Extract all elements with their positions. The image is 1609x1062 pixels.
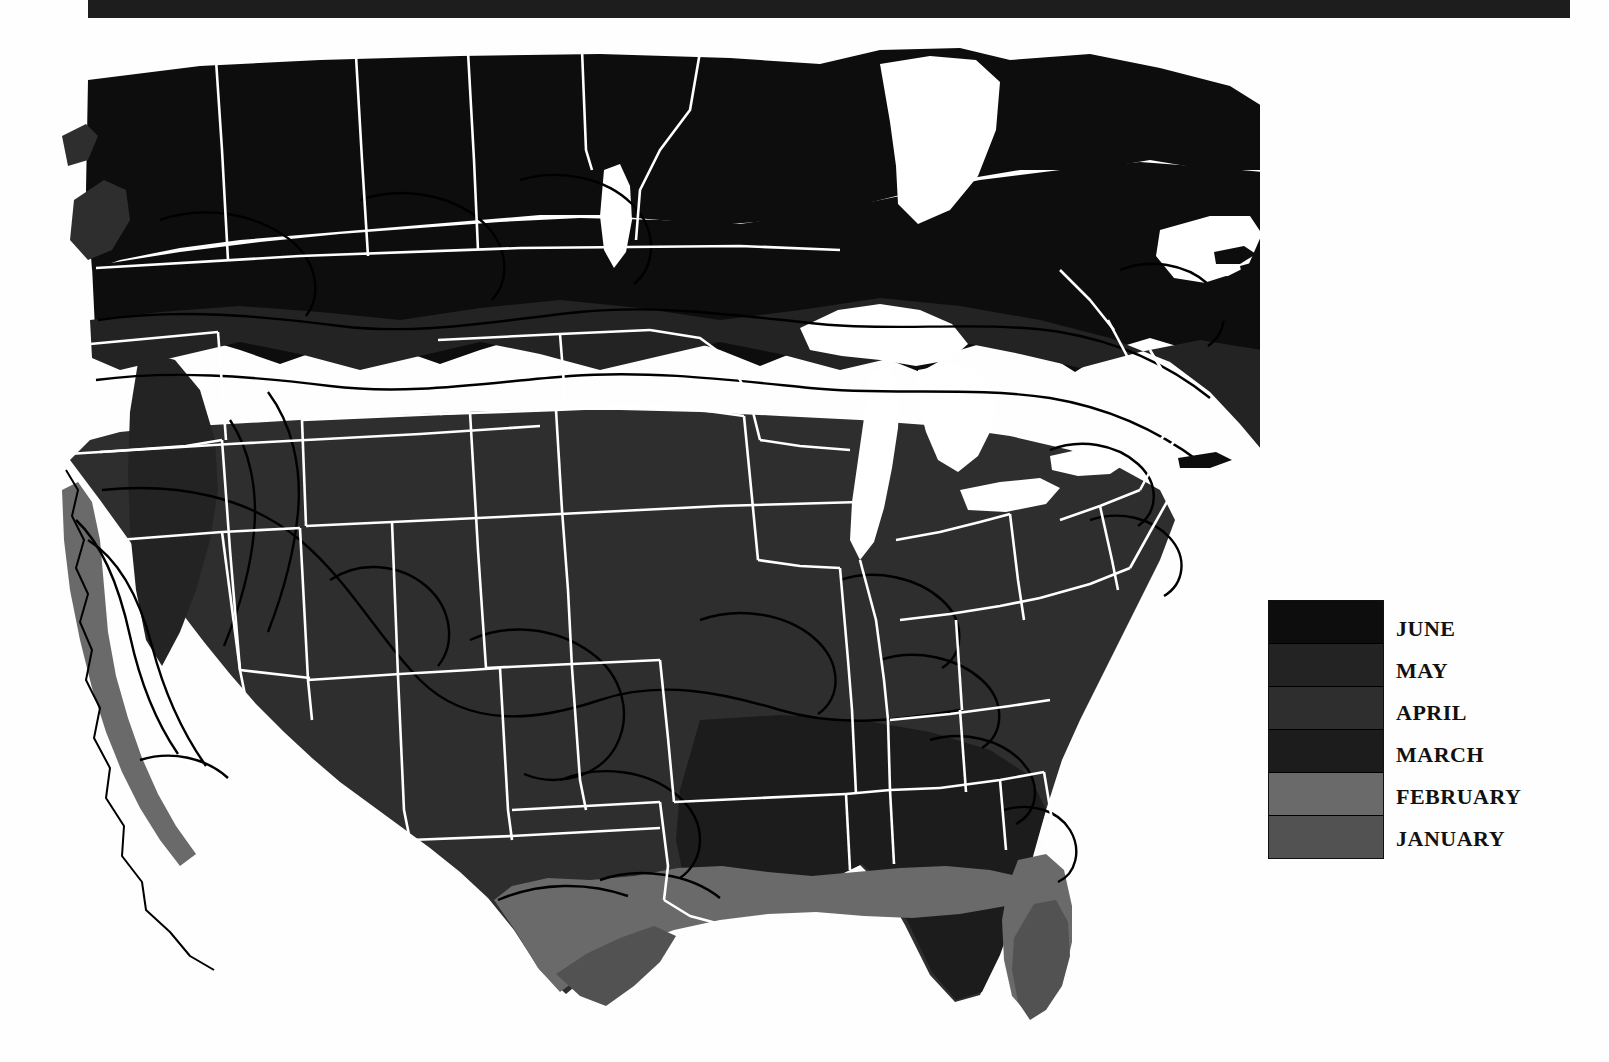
legend-label-june: JUNE (1396, 618, 1455, 640)
legend-label-april: APRIL (1396, 702, 1467, 724)
legend-label-march: MARCH (1396, 744, 1484, 766)
map-page: JUNE MAY APRIL MARCH FEBRUARY JANUARY (0, 0, 1609, 1062)
legend-swatch-column (1268, 600, 1384, 859)
legend-swatch-2[interactable] (1269, 687, 1383, 730)
page-header-bar (88, 0, 1570, 18)
legend-swatch-5[interactable] (1269, 816, 1383, 858)
map-canvas (0, 20, 1260, 1020)
legend-swatch-4[interactable] (1269, 773, 1383, 816)
legend-label-january: JANUARY (1396, 828, 1505, 850)
legend-label-february: FEBRUARY (1396, 786, 1521, 808)
map-layer-march-south (676, 715, 1046, 1000)
legend-swatch-1[interactable] (1269, 644, 1383, 687)
legend-swatch-3[interactable] (1269, 730, 1383, 773)
frost-date-map (0, 20, 1260, 1020)
legend: JUNE MAY APRIL MARCH FEBRUARY JANUARY (1268, 600, 1384, 859)
legend-label-may: MAY (1396, 660, 1448, 682)
legend-swatch-0[interactable] (1269, 601, 1383, 644)
island-long-island (1178, 452, 1232, 468)
region-march-southeast (676, 715, 1046, 1000)
